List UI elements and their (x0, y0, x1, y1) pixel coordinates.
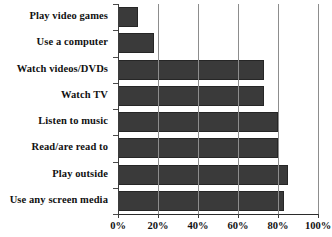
x-axis-tick (158, 214, 159, 218)
y-axis-tick (113, 135, 118, 136)
category-label: Play video games (0, 10, 108, 21)
y-axis-tick (113, 4, 118, 5)
bar (118, 165, 288, 185)
y-axis-tick (113, 30, 118, 31)
bar-row (118, 188, 318, 214)
bar-chart: Play video gamesUse a computerWatch vide… (0, 0, 332, 237)
x-axis-tick (318, 214, 319, 218)
category-label: Watch videos/DVDs (0, 63, 108, 74)
bar (118, 33, 154, 53)
bar (118, 60, 264, 80)
plot-area (118, 4, 318, 214)
category-label: Listen to music (0, 115, 108, 126)
gridline-40 (198, 4, 199, 214)
bar-row (118, 162, 318, 188)
x-axis-tick (118, 214, 119, 218)
category-label: Use a computer (0, 36, 108, 47)
x-axis-tick-label: 0% (110, 220, 126, 231)
gridline-0 (118, 4, 119, 214)
bar (118, 7, 138, 27)
bar-row (118, 30, 318, 56)
x-axis-tick (198, 214, 199, 218)
bar-row (118, 57, 318, 83)
category-label: Use any screen media (0, 194, 108, 205)
bar-series (118, 4, 318, 214)
y-axis-tick (113, 188, 118, 189)
y-axis-tick (113, 162, 118, 163)
category-axis-labels: Play video gamesUse a computerWatch vide… (0, 4, 112, 214)
x-axis-tick-label: 60% (228, 220, 249, 231)
x-axis-tick (278, 214, 279, 218)
bar-row (118, 109, 318, 135)
bar (118, 86, 264, 106)
x-axis-tick-label: 40% (188, 220, 209, 231)
x-axis-tick (238, 214, 239, 218)
y-axis-tick (113, 83, 118, 84)
category-label: Watch TV (0, 89, 108, 100)
y-axis-tick (113, 109, 118, 110)
x-axis-tick-label: 20% (148, 220, 169, 231)
x-axis-line (118, 214, 319, 215)
category-label: Read/are read to (0, 141, 108, 152)
bar-row (118, 4, 318, 30)
gridline-80 (278, 4, 279, 214)
gridline-100 (318, 4, 319, 214)
gridline-60 (238, 4, 239, 214)
y-axis-tick (113, 57, 118, 58)
bar (118, 191, 284, 211)
x-axis-tick-label: 100% (305, 220, 331, 231)
category-label: Play outside (0, 168, 108, 179)
bar-row (118, 83, 318, 109)
bar-row (118, 135, 318, 161)
x-axis-tick-label: 80% (268, 220, 289, 231)
gridline-20 (158, 4, 159, 214)
